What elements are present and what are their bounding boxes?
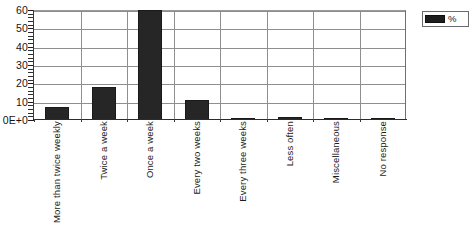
vertical-gridline <box>174 11 175 120</box>
y-tick-label: 40 <box>0 42 28 53</box>
x-label-slot: Once a week <box>127 121 174 225</box>
x-tickmark <box>313 119 314 122</box>
x-tick-label: Less often <box>285 121 295 166</box>
x-label-slot: Miscellaneous <box>313 121 360 225</box>
legend-entry: % <box>425 14 466 24</box>
x-label-slot: Less often <box>267 121 314 225</box>
vertical-gridline <box>127 11 128 120</box>
vertical-gridline <box>360 11 361 120</box>
y-tick-label: 30 <box>0 60 28 71</box>
x-tick-label: Every three weeks <box>238 121 248 202</box>
x-label-slot: Every two weeks <box>174 121 221 225</box>
vertical-gridline <box>313 11 314 120</box>
x-label-slot: Twice a week <box>81 121 128 225</box>
y-tick-label: 50 <box>0 23 28 34</box>
x-tick-label: Every two weeks <box>192 121 202 195</box>
x-tickmark <box>360 119 361 122</box>
x-tick-label: More than twice weekly <box>52 121 62 223</box>
x-axis-category-labels: More than twice weeklyTwice a weekOnce a… <box>34 121 406 225</box>
y-tick-label: 20 <box>0 78 28 89</box>
x-tickmark <box>267 119 268 122</box>
y-axis-tick-labels: 0E+0102030405060 <box>0 3 28 125</box>
vertical-gridline <box>220 11 221 120</box>
bar <box>92 87 116 120</box>
x-tickmark <box>220 119 221 122</box>
x-tickmark <box>34 119 35 122</box>
chart-legend: % <box>422 11 469 27</box>
x-label-slot: No response <box>360 121 407 225</box>
y-tick-label: 60 <box>0 5 28 16</box>
x-tickmark <box>174 119 175 122</box>
x-tick-label: Twice a week <box>99 121 109 180</box>
x-tickmark <box>127 119 128 122</box>
vertical-gridline <box>267 11 268 120</box>
x-tick-label: No response <box>378 121 388 177</box>
bar <box>185 100 209 120</box>
y-tick-label: 10 <box>0 97 28 108</box>
x-tick-label: Once a week <box>145 121 155 178</box>
plot-area <box>34 10 406 120</box>
vertical-gridline <box>81 11 82 120</box>
x-tickmark <box>81 119 82 122</box>
x-tick-label: Miscellaneous <box>331 121 341 183</box>
x-label-slot: Every three weeks <box>220 121 267 225</box>
y-tick-label: 0E+0 <box>0 115 28 126</box>
bar-chart: 0E+0102030405060 More than twice weeklyT… <box>0 0 475 228</box>
legend-swatch-percent <box>425 15 445 23</box>
x-label-slot: More than twice weekly <box>34 121 81 225</box>
bar <box>138 10 162 120</box>
legend-label-percent: % <box>448 14 456 24</box>
